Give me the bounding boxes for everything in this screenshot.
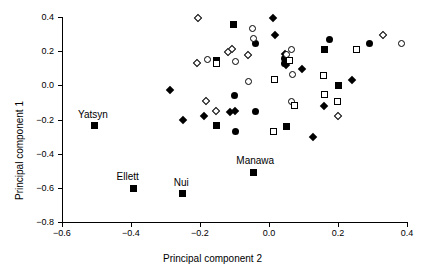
data-point <box>230 21 237 28</box>
data-point <box>286 57 293 64</box>
data-point <box>321 46 328 53</box>
data-point <box>320 72 327 79</box>
data-point <box>335 82 342 89</box>
y-axis-title: Principal component 1 <box>14 101 25 200</box>
data-point <box>252 108 259 115</box>
data-point <box>232 128 239 135</box>
data-point <box>326 36 333 43</box>
data-point <box>179 190 186 197</box>
data-point <box>250 35 257 42</box>
y-tick-label: −0.4 <box>20 150 54 159</box>
data-point-label: Yatsyn <box>78 110 108 120</box>
data-point <box>283 123 290 130</box>
x-tick-label: −0.4 <box>111 229 151 238</box>
data-point <box>91 122 98 129</box>
data-point <box>353 46 360 53</box>
data-point <box>288 46 295 53</box>
data-point <box>249 25 256 32</box>
data-point <box>291 102 298 109</box>
y-tick-label: 0.4 <box>20 13 54 22</box>
x-tick-mark <box>269 223 270 227</box>
data-point <box>270 128 277 135</box>
x-tick-mark <box>131 223 132 227</box>
y-tick-label: −0.2 <box>20 116 54 125</box>
x-tick-label: 0.4 <box>387 229 425 238</box>
data-point <box>204 56 211 63</box>
data-point <box>213 122 220 129</box>
x-tick-label: −0.6 <box>42 229 82 238</box>
y-tick-label: 0.2 <box>20 47 54 56</box>
data-point <box>321 91 328 98</box>
x-tick-mark <box>407 223 408 227</box>
x-tick-mark <box>62 223 63 227</box>
data-point <box>130 185 137 192</box>
x-tick-label: 0.0 <box>249 229 289 238</box>
data-point <box>232 58 239 65</box>
data-point <box>213 60 220 67</box>
data-point-label: Ellett <box>117 172 139 182</box>
x-tick-mark <box>200 223 201 227</box>
data-point <box>271 76 278 83</box>
scatter-plot-figure: 0.40.20.0−0.2−0.4−0.6−0.8 −0.6−0.4−0.20.… <box>0 0 425 279</box>
y-tick-label: −0.8 <box>20 218 54 227</box>
x-tick-label: 0.2 <box>318 229 358 238</box>
x-axis-title: Principal component 2 <box>0 253 425 264</box>
x-axis-line <box>62 222 408 223</box>
y-tick-label: −0.6 <box>20 184 54 193</box>
data-point-label: Manawa <box>236 156 274 166</box>
y-tick-label: 0.0 <box>20 81 54 90</box>
data-point <box>334 98 341 105</box>
data-point-label: Nui <box>174 178 189 188</box>
data-point <box>250 169 257 176</box>
x-tick-mark <box>338 223 339 227</box>
x-tick-label: −0.2 <box>180 229 220 238</box>
